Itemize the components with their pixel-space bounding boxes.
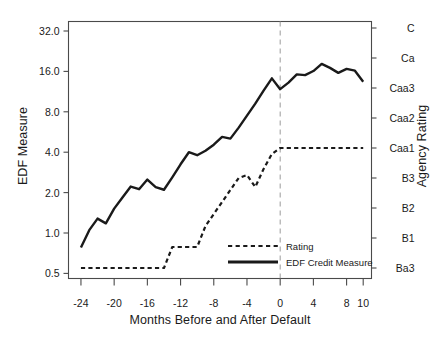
x-axis-tick-label: -20 [107,297,122,309]
y-axis-left-tick-label: 0.5 [8,267,60,279]
y-axis-left-tick-label: 16.0 [8,65,60,77]
plot-canvas [0,0,440,343]
x-axis-tick-label: -4 [242,297,251,309]
series-line-edf-credit-measure [81,64,363,248]
y-axis-left-tick-label: 32.0 [8,25,60,37]
x-axis-tick-label: -12 [173,297,188,309]
y-axis-left-tick-label: 1.0 [8,227,60,239]
y-axis-right-tick-label: B2 [381,202,415,214]
y-axis-left-tick-label: 4.0 [8,146,60,158]
x-axis-tick-label: -16 [140,297,155,309]
series-line-rating [81,148,363,268]
y-axis-left-tick-label: 2.0 [8,187,60,199]
y-axis-left-tick-label: 8.0 [8,106,60,118]
y-axis-right-tick-label: Ba3 [381,262,415,274]
y-axis-right-tick-label: C [381,22,415,34]
legend-label-rating: Rating [286,241,313,252]
x-axis-tick-label: -24 [73,297,88,309]
legend-label-edf-credit-measure: EDF Credit Measure [286,257,373,268]
y-axis-right-title: Agency Rating [415,76,429,216]
y-axis-right-tick-label: Caa2 [381,112,415,124]
y-axis-right-tick-label: Caa3 [381,82,415,94]
x-axis-title: Months Before and After Default [68,313,372,327]
edf-rating-chart-figure: EDF Measure Agency Rating Months Before … [0,0,440,343]
x-axis-tick-label: 4 [310,297,316,309]
x-axis-tick-label: 8 [344,297,350,309]
x-axis-tick-label: 10 [357,297,369,309]
x-axis-tick-label: 0 [277,297,283,309]
x-axis-tick-label: -8 [209,297,218,309]
y-axis-right-tick-label: Ca [381,52,415,64]
plot-frame [69,22,372,279]
y-axis-right-tick-label: B3 [381,172,415,184]
y-axis-right-tick-label: Caa1 [381,142,415,154]
y-axis-right-tick-label: B1 [381,232,415,244]
